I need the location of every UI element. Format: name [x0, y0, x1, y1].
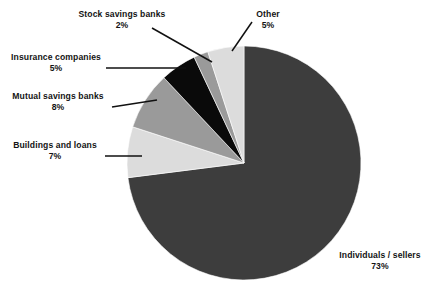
callout-other: Other 5%: [240, 9, 296, 31]
callout-label-other: Other: [240, 9, 296, 20]
callout-percent-insurance-companies: 5%: [6, 63, 106, 74]
pie-chart-figure: Stock savings banks 2% Insurance compani…: [0, 0, 435, 294]
callout-percent-buildings-and-loans: 7%: [6, 151, 104, 162]
callout-percent-stock-savings-banks: 2%: [60, 20, 184, 31]
callout-label-mutual-savings-banks: Mutual savings banks: [4, 91, 112, 102]
callout-mutual-savings-banks: Mutual savings banks 8%: [4, 91, 112, 113]
callout-buildings-and-loans: Buildings and loans 7%: [6, 140, 104, 162]
callout-label-stock-savings-banks: Stock savings banks: [60, 9, 184, 20]
callout-percent-mutual-savings-banks: 8%: [4, 102, 112, 113]
pie-slice-group: [127, 46, 361, 280]
callout-individuals-sellers: Individuals / sellers 73%: [330, 250, 430, 272]
callout-percent-individuals-sellers: 73%: [330, 261, 430, 272]
callout-insurance-companies: Insurance companies 5%: [6, 52, 106, 74]
callout-percent-other: 5%: [240, 20, 296, 31]
leader-line-stock-savings-banks: [152, 28, 212, 62]
callout-stock-savings-banks: Stock savings banks 2%: [60, 9, 184, 31]
callout-label-insurance-companies: Insurance companies: [6, 52, 106, 63]
callout-label-individuals-sellers: Individuals / sellers: [330, 250, 430, 261]
callout-label-buildings-and-loans: Buildings and loans: [6, 140, 104, 151]
